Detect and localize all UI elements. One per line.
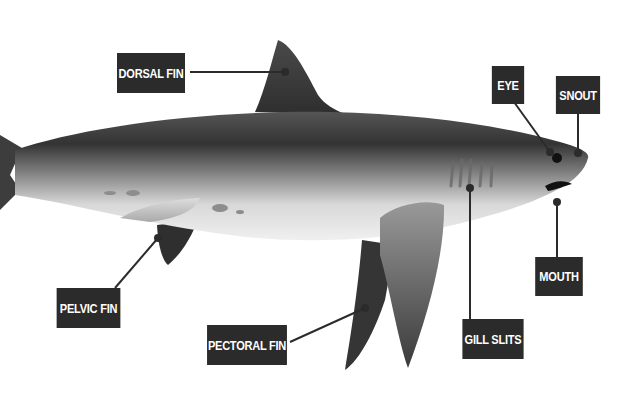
- pectoral-fin-shape: [380, 202, 444, 368]
- shark-anatomy-diagram: DORSAL FIN EYE SNOUT MOUTH GILL SLITS PE…: [0, 0, 638, 396]
- label-dorsal-fin: DORSAL FIN: [117, 53, 185, 93]
- shark-body: [15, 112, 588, 240]
- dorsal-fin-shape: [255, 40, 345, 114]
- label-gill-slits: GILL SLITS: [462, 319, 523, 359]
- label-snout: SNOUT: [556, 76, 600, 114]
- label-pectoral-fin: PECTORAL FIN: [207, 325, 287, 365]
- label-eye: EYE: [492, 66, 524, 104]
- eye-shape: [552, 153, 562, 163]
- shark-illustration: [0, 0, 638, 396]
- label-mouth: MOUTH: [535, 257, 583, 296]
- label-pelvic-fin: PELVIC FIN: [57, 288, 121, 328]
